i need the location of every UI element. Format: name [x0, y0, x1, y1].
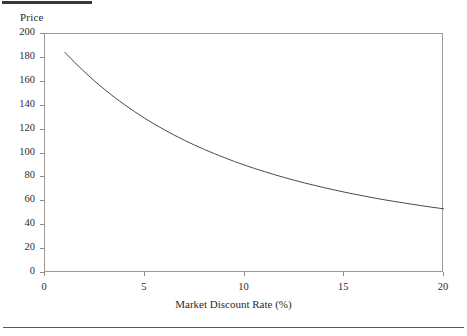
y-tick-mark	[40, 105, 44, 106]
y-tick-label: 120	[5, 122, 35, 133]
y-tick-mark	[40, 224, 44, 225]
y-tick-mark	[40, 33, 44, 34]
price-curve-line	[65, 52, 444, 208]
figure-container: Price 020406080100120140160180200 051015…	[0, 0, 467, 336]
x-tick-mark	[44, 272, 45, 276]
x-tick-label: 0	[29, 281, 59, 292]
y-tick-mark	[40, 129, 44, 130]
x-tick-label: 15	[328, 281, 358, 292]
x-tick-mark	[343, 272, 344, 276]
y-tick-mark	[40, 176, 44, 177]
top-rule-divider	[2, 1, 92, 4]
y-tick-mark	[40, 248, 44, 249]
x-tick-mark	[144, 272, 145, 276]
y-tick-label: 80	[5, 169, 35, 180]
price-curve-svg	[45, 34, 444, 273]
y-tick-label: 40	[5, 217, 35, 228]
x-tick-label: 10	[229, 281, 259, 292]
y-tick-label: 140	[5, 98, 35, 109]
y-tick-label: 160	[5, 74, 35, 85]
x-tick-label: 5	[129, 281, 159, 292]
bottom-rule-divider	[3, 327, 464, 328]
y-tick-label: 180	[5, 50, 35, 61]
y-tick-label: 0	[5, 265, 35, 276]
y-tick-mark	[40, 81, 44, 82]
y-tick-label: 20	[5, 241, 35, 252]
x-tick-label: 20	[428, 281, 458, 292]
y-tick-label: 200	[5, 26, 35, 37]
y-tick-mark	[40, 200, 44, 201]
y-tick-label: 60	[5, 193, 35, 204]
y-tick-mark	[40, 153, 44, 154]
x-axis-title: Market Discount Rate (%)	[0, 298, 467, 310]
x-tick-mark	[244, 272, 245, 276]
plot-area	[44, 33, 443, 272]
x-tick-mark	[443, 272, 444, 276]
y-axis-title: Price	[20, 11, 44, 23]
y-tick-mark	[40, 57, 44, 58]
y-tick-label: 100	[5, 146, 35, 157]
